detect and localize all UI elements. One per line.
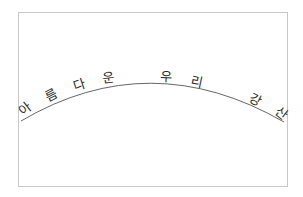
curved-char: 우	[160, 69, 173, 85]
curved-char: 운	[101, 69, 115, 85]
curved-text: 아름다운우리강산	[16, 69, 291, 123]
arc-path	[21, 83, 284, 122]
curved-text-canvas: 아름다운우리강산	[0, 0, 303, 197]
curved-char: 리	[189, 73, 204, 90]
curved-char: 산	[272, 104, 291, 123]
curved-char: 름	[42, 86, 60, 105]
curved-char: 강	[247, 90, 265, 109]
curved-char: 다	[71, 75, 87, 93]
